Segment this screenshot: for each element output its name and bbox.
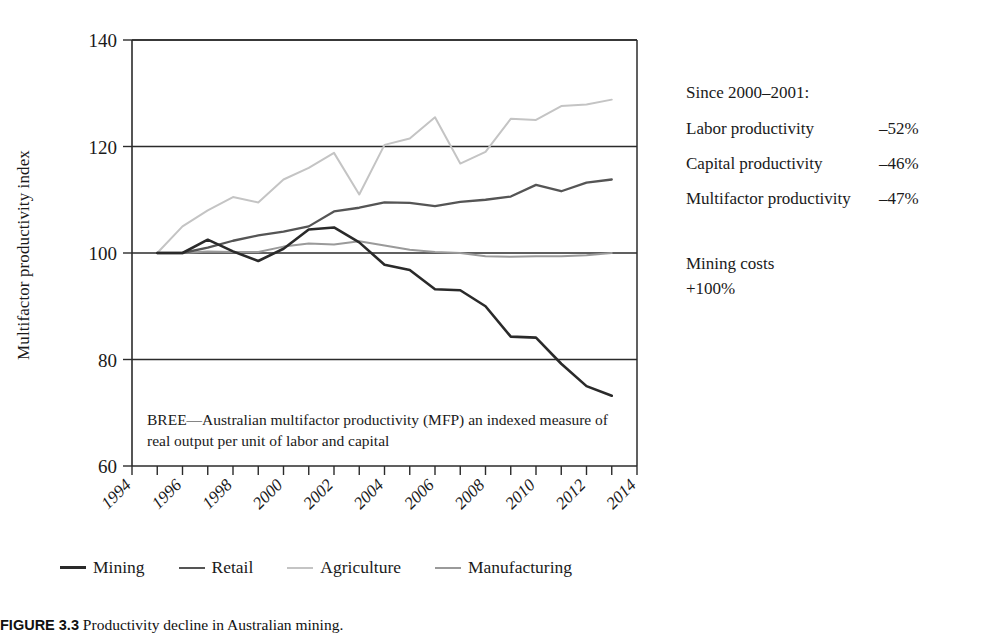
stat-label: Labor productivity xyxy=(686,119,879,139)
stat-label: Multifactor productivity xyxy=(686,189,879,209)
x-tick-label-1998: 1998 xyxy=(198,475,236,513)
y-tick-label-60: 60 xyxy=(98,456,117,477)
mining-cost-label: Mining costs xyxy=(686,251,986,276)
stat-row: Multifactor productivity–47% xyxy=(686,189,986,209)
y-tick-label-120: 120 xyxy=(89,137,118,158)
side-stats-panel: Since 2000–2001: Labor productivity–52%C… xyxy=(686,83,986,301)
chart-legend: MiningRetailAgricultureManufacturing xyxy=(60,557,572,578)
side-panel-stat-list: Labor productivity–52%Capital productivi… xyxy=(686,119,986,209)
stat-value: –52% xyxy=(879,119,919,139)
stat-value: –47% xyxy=(879,189,919,209)
legend-label-manufacturing: Manufacturing xyxy=(468,557,572,578)
legend-item-retail[interactable]: Retail xyxy=(179,557,254,578)
legend-swatch-mining xyxy=(60,566,86,569)
stat-value: –46% xyxy=(879,154,919,174)
x-tick-label-2010: 2010 xyxy=(501,475,539,513)
x-tick-label-1994: 1994 xyxy=(97,475,135,513)
x-tick-label-1996: 1996 xyxy=(148,475,186,513)
y-tick-label-100: 100 xyxy=(89,243,118,264)
stat-label: Capital productivity xyxy=(686,154,879,174)
legend-swatch-manufacturing xyxy=(435,567,461,569)
side-panel-heading: Since 2000–2001: xyxy=(686,83,986,103)
series-line-retail xyxy=(157,180,612,253)
figure-caption-number: FIGURE 3.3 xyxy=(0,617,79,633)
x-axis-ticks: 1994199619982000200220042006200820102012… xyxy=(97,466,640,513)
legend-item-manufacturing[interactable]: Manufacturing xyxy=(435,557,572,578)
legend-item-agriculture[interactable]: Agriculture xyxy=(287,557,401,578)
y-tick-label-80: 80 xyxy=(98,350,117,371)
x-tick-label-2006: 2006 xyxy=(400,475,438,513)
legend-swatch-agriculture xyxy=(287,567,313,569)
x-tick-label-2002: 2002 xyxy=(299,475,337,513)
x-tick-label-2000: 2000 xyxy=(249,475,287,513)
data-series-group xyxy=(157,100,612,396)
legend-label-mining: Mining xyxy=(93,557,145,578)
y-tick-label-140: 140 xyxy=(89,30,118,51)
x-tick-label-2012: 2012 xyxy=(552,475,590,513)
legend-swatch-retail xyxy=(179,567,205,569)
legend-item-mining[interactable]: Mining xyxy=(60,557,145,578)
y-axis-ticks: 6080100120140 xyxy=(89,30,133,477)
series-line-agriculture xyxy=(157,100,612,253)
legend-label-agriculture: Agriculture xyxy=(320,557,401,578)
stat-row: Capital productivity–46% xyxy=(686,154,986,174)
figure-caption: FIGURE 3.3 Productivity decline in Austr… xyxy=(0,616,995,634)
x-tick-label-2004: 2004 xyxy=(350,475,388,513)
legend-label-retail: Retail xyxy=(212,557,254,578)
mining-cost-block: Mining costs +100% xyxy=(686,251,986,301)
stat-row: Labor productivity–52% xyxy=(686,119,986,139)
x-tick-label-2014: 2014 xyxy=(602,475,640,513)
grid-lines xyxy=(132,40,637,360)
x-tick-label-2008: 2008 xyxy=(451,475,489,513)
figure-caption-text: Productivity decline in Australian minin… xyxy=(83,616,343,633)
plot-annotation-note: BREE—Australian multifactor productivity… xyxy=(147,409,617,451)
mining-cost-value: +100% xyxy=(686,276,986,301)
